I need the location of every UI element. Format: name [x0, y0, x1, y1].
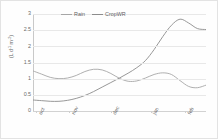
y-tick-label: 0.5	[3, 92, 31, 97]
x-axis-ticks: octnovdecjanfeb	[33, 112, 206, 139]
y-axis-title: (L d-1 m-2)	[8, 14, 15, 78]
gridline	[33, 95, 206, 96]
legend-item-cropwr[interactable]: CropWR	[92, 12, 126, 17]
plot-area	[33, 14, 206, 111]
y-axis-title-sup1: -1	[8, 46, 12, 49]
x-tick-label: nov	[71, 106, 80, 116]
y-axis-title-mid: m	[8, 40, 14, 46]
y-axis-title-end: )	[8, 35, 14, 37]
x-tick-label: oct	[38, 107, 46, 116]
y-axis-ticks: 00.511.522.53	[1, 1, 31, 139]
y-axis-title-sup2: -2	[8, 37, 12, 40]
legend-label: Rain	[74, 12, 85, 17]
legend-swatch-icon	[92, 14, 103, 15]
legend-swatch-icon	[61, 14, 72, 15]
gridline	[33, 46, 206, 47]
legend-label: CropWR	[105, 12, 126, 17]
x-tick-label: jan	[152, 107, 160, 116]
y-axis-title-main: (L d	[8, 49, 14, 58]
y-tick-label: 0	[3, 108, 31, 113]
legend-item-rain[interactable]: Rain	[61, 12, 85, 17]
gridlines	[33, 14, 206, 111]
gridline	[33, 79, 206, 80]
chart-legend: RainCropWR	[61, 12, 126, 17]
chart-figure: 00.511.522.53 (L d-1 m-2) octnovdecjanfe…	[0, 0, 218, 139]
gridline	[33, 63, 206, 64]
x-tick-label: feb	[187, 107, 195, 116]
gridline	[33, 30, 206, 31]
